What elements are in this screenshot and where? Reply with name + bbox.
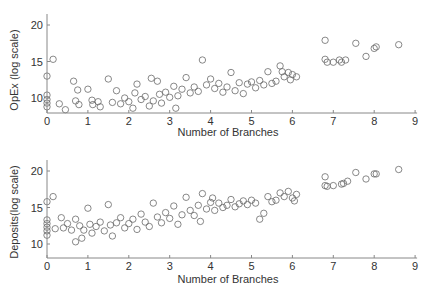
- x-tick-label: 9: [412, 260, 418, 272]
- data-point: [191, 212, 197, 218]
- data-point: [195, 88, 201, 94]
- data-point: [60, 225, 66, 231]
- y-tick-label: 15: [31, 202, 43, 214]
- x-tick-label: 9: [412, 115, 418, 127]
- data-point: [322, 174, 328, 180]
- opex-y-axis-label: OpEx (log scale): [8, 29, 20, 110]
- data-point: [72, 216, 78, 222]
- data-point: [76, 101, 82, 107]
- data-point: [150, 200, 156, 206]
- data-point: [203, 82, 209, 88]
- data-point: [207, 76, 213, 82]
- data-point: [154, 78, 160, 84]
- data-point: [175, 93, 181, 99]
- data-point: [261, 210, 267, 216]
- data-point: [171, 83, 177, 89]
- data-point: [56, 101, 62, 107]
- data-point: [154, 214, 160, 220]
- data-point: [75, 87, 81, 93]
- data-point: [72, 98, 78, 104]
- data-point: [199, 57, 205, 63]
- data-point: [261, 82, 267, 88]
- x-tick-label: 7: [330, 260, 336, 272]
- data-point: [183, 194, 189, 200]
- y-tick-label: 10: [31, 92, 43, 104]
- data-point: [117, 101, 123, 107]
- x-tick-label: 0: [44, 260, 50, 272]
- data-point: [228, 196, 234, 202]
- data-point: [273, 197, 279, 203]
- data-point: [113, 88, 119, 94]
- data-point: [203, 206, 209, 212]
- data-point: [134, 226, 140, 232]
- data-point: [396, 42, 402, 48]
- x-tick-label: 1: [85, 260, 91, 272]
- data-point: [212, 207, 218, 213]
- data-point: [89, 230, 95, 236]
- opex-x-axis-label: Number of Branches: [178, 126, 279, 138]
- data-point: [122, 225, 128, 231]
- data-point: [179, 86, 185, 92]
- data-point: [150, 98, 156, 104]
- data-point: [138, 211, 144, 217]
- data-point: [58, 215, 64, 221]
- data-point: [130, 216, 136, 222]
- deposits-points: [44, 166, 402, 245]
- data-point: [175, 221, 181, 227]
- data-point: [240, 90, 246, 96]
- x-tick-label: 6: [289, 115, 295, 127]
- data-point: [146, 223, 152, 229]
- y-tick-label: 20: [31, 19, 43, 31]
- x-tick-label: 2: [126, 115, 132, 127]
- data-point: [97, 219, 103, 225]
- data-point: [148, 75, 154, 81]
- deposits-y-axis-label: Deposits(log scale): [8, 165, 20, 259]
- data-point: [216, 80, 222, 86]
- data-point: [126, 99, 132, 105]
- x-tick-label: 3: [167, 260, 173, 272]
- data-point: [232, 88, 238, 94]
- data-point: [109, 233, 115, 239]
- data-point: [158, 100, 164, 106]
- scatter-charts: 0123456789101520 Number of Branches OpEx…: [0, 0, 432, 301]
- data-point: [363, 176, 369, 182]
- data-point: [117, 215, 123, 221]
- data-point: [105, 201, 111, 207]
- data-point: [371, 45, 377, 51]
- data-point: [156, 91, 162, 97]
- data-point: [197, 218, 203, 224]
- data-point: [132, 90, 138, 96]
- deposits-scatter-panel: 0123456789101520 Number of Branches Depo…: [8, 160, 418, 285]
- data-point: [228, 69, 234, 75]
- x-tick-label: 1: [85, 115, 91, 127]
- x-tick-label: 8: [371, 115, 377, 127]
- data-point: [236, 80, 242, 86]
- data-point: [50, 56, 56, 62]
- data-point: [330, 182, 336, 188]
- x-tick-label: 6: [289, 260, 295, 272]
- deposits-x-axis-label: Number of Branches: [178, 273, 279, 285]
- data-point: [85, 205, 91, 211]
- opex-scatter-panel: 0123456789101520 Number of Branches OpEx…: [8, 14, 418, 138]
- data-point: [363, 53, 369, 59]
- x-tick-label: 4: [208, 260, 214, 272]
- data-point: [324, 183, 330, 189]
- data-point: [224, 84, 230, 90]
- data-point: [101, 228, 107, 234]
- opex-axes: 0123456789101520: [31, 14, 418, 127]
- data-point: [167, 215, 173, 221]
- data-point: [62, 107, 68, 113]
- data-point: [265, 69, 271, 75]
- data-point: [353, 40, 359, 46]
- data-point: [322, 37, 328, 43]
- data-point: [130, 105, 136, 111]
- x-tick-label: 7: [330, 115, 336, 127]
- data-point: [70, 78, 76, 84]
- data-point: [162, 209, 168, 215]
- data-point: [85, 86, 91, 92]
- data-point: [179, 212, 185, 218]
- data-point: [167, 94, 173, 100]
- data-point: [87, 221, 93, 227]
- data-point: [353, 169, 359, 175]
- data-point: [77, 223, 83, 229]
